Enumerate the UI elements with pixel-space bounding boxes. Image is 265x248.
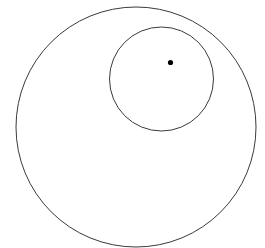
- center-point-dot: [168, 60, 173, 65]
- diagram-svg: [0, 0, 265, 248]
- figure-canvas: [0, 0, 265, 248]
- figure-background: [0, 0, 265, 248]
